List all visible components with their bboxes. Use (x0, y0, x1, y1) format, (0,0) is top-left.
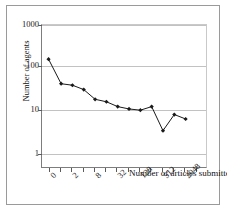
series-markers (46, 57, 187, 133)
y-tick-label-10: 10 (31, 105, 40, 113)
data-point-5 (104, 100, 108, 104)
data-point-7 (127, 107, 131, 111)
figure-container: 1000 100 10 1 Number of agents Number of… (0, 0, 227, 211)
y-tick-label-1: 1 (35, 149, 39, 157)
data-point-1 (59, 82, 63, 86)
x-tick-mark-3 (83, 168, 84, 172)
x-tick-mark-5 (105, 168, 106, 172)
x-axis-labels: 028321285122048 (41, 173, 208, 207)
series-line (49, 59, 186, 130)
x-tick-mark-1 (60, 168, 61, 172)
data-point-2 (70, 83, 74, 87)
data-series (41, 24, 208, 169)
data-point-9 (150, 105, 154, 109)
data-point-12 (184, 117, 188, 121)
data-point-8 (138, 108, 142, 112)
data-point-0 (46, 57, 50, 61)
data-point-6 (116, 105, 120, 109)
x-tick-mark-7 (128, 168, 129, 172)
y-axis-title: Number of agents (21, 16, 31, 126)
